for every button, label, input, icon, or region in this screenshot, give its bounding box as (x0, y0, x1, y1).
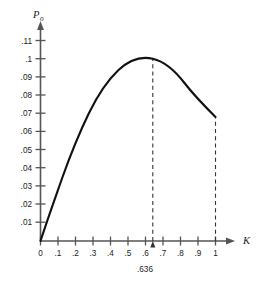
po-vs-k-line-chart: .01 .02 .03 .04 .05 .06 .07 .08 .09 .1 .… (0, 0, 267, 289)
y-tick-label-0.08: .08 (21, 91, 33, 100)
y-tick-label-0.07: .07 (21, 109, 33, 118)
x-tick-label-0.7: .7 (160, 249, 167, 258)
x-tick-label-0.9: .9 (195, 249, 202, 258)
x-tick-label-0.6: .6 (142, 249, 149, 258)
peak-annotation-label: .636 (137, 265, 153, 274)
y-axis-title: P (32, 9, 40, 20)
x-tick-label-1: 1 (213, 249, 218, 258)
y-tick-label-0.01: .01 (21, 218, 33, 227)
x-tick-label-0.3: .3 (90, 249, 97, 258)
y-tick-label-0.02: .02 (21, 200, 33, 209)
chart-figure: .01 .02 .03 .04 .05 .06 .07 .08 .09 .1 .… (0, 0, 267, 289)
y-tick-label-0.05: .05 (21, 146, 33, 155)
x-axis-title: K (242, 235, 251, 246)
x-tick-label-0.2: .2 (72, 249, 79, 258)
x-tick-label-0: 0 (38, 249, 43, 258)
y-tick-label-0.11: .11 (21, 37, 32, 46)
y-tick-label-0.1: .1 (25, 55, 32, 64)
x-tick-label-0.4: .4 (107, 249, 114, 258)
y-tick-label-0.04: .04 (21, 164, 33, 173)
x-tick-label-0.8: .8 (177, 249, 184, 258)
y-tick-label-0.09: .09 (21, 73, 33, 82)
x-tick-label-0.1: .1 (55, 249, 62, 258)
y-tick-label-0.03: .03 (21, 182, 33, 191)
x-tick-label-0.5: .5 (125, 249, 132, 258)
y-axis-title-subscript: o (40, 15, 44, 23)
y-tick-label-0.06: .06 (21, 127, 33, 136)
